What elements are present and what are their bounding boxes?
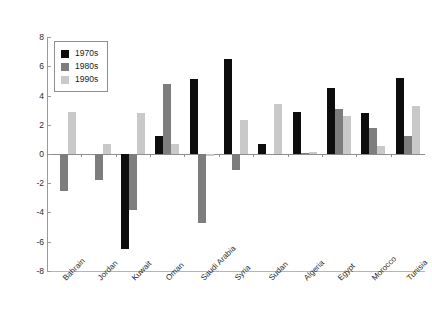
y-tick-label: 8: [14, 32, 44, 42]
bar: [60, 154, 68, 191]
bar: [68, 112, 76, 154]
bar: [396, 78, 404, 154]
bar: [293, 112, 301, 154]
legend-swatch-1980s: [61, 63, 69, 71]
bar: [274, 104, 282, 154]
cropped-chart-title: [0, 0, 432, 4]
bar: [258, 144, 266, 154]
bar: [171, 144, 179, 154]
chart-legend: 1970s 1980s 1990s: [54, 41, 108, 92]
bar: [206, 154, 214, 156]
bar: [121, 154, 129, 249]
legend-item: 1990s: [61, 73, 98, 86]
y-tick-label: 0: [14, 149, 44, 159]
bar: [309, 152, 317, 154]
bar: [155, 136, 163, 154]
bar: [95, 154, 103, 180]
legend-label-1970s: 1970s: [75, 49, 98, 58]
y-tick-label: 4: [14, 91, 44, 101]
y-tick-label: -6: [14, 237, 44, 247]
y-tick-label: 6: [14, 61, 44, 71]
legend-label-1980s: 1980s: [75, 62, 98, 71]
bar: [224, 59, 232, 154]
y-tick-label: 2: [14, 120, 44, 130]
bar-chart: 86420-2-4-6-8 BahrainJordanKuwaitOmanSau…: [0, 0, 432, 320]
y-tick-label: -8: [14, 266, 44, 276]
legend-item: 1980s: [61, 60, 98, 73]
bar: [343, 116, 351, 154]
bar: [240, 120, 248, 154]
legend-item: 1970s: [61, 47, 98, 60]
bar: [377, 146, 385, 154]
y-tick-label: -2: [14, 178, 44, 188]
y-tick-label: -4: [14, 207, 44, 217]
legend-swatch-1970s: [61, 50, 69, 58]
bar: [327, 88, 335, 154]
bar: [103, 144, 111, 154]
bar: [361, 113, 369, 154]
legend-label-1990s: 1990s: [75, 75, 98, 84]
bar: [404, 136, 412, 154]
bar: [198, 154, 206, 223]
bar: [369, 128, 377, 154]
bar: [335, 109, 343, 154]
bar: [412, 106, 420, 154]
bar: [163, 84, 171, 154]
bar: [301, 153, 309, 154]
legend-swatch-1990s: [61, 76, 69, 84]
y-tick-mark: [47, 271, 51, 272]
bar: [129, 154, 137, 210]
bar: [232, 154, 240, 170]
bar: [190, 79, 198, 154]
bar: [137, 113, 145, 154]
